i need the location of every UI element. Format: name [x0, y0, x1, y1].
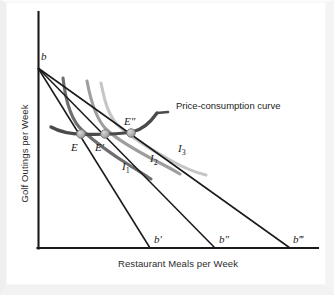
indifference-curve-label-i2: I2 — [150, 152, 158, 167]
budget-origin-label-b: b — [41, 50, 47, 62]
budget-line-b-triple-prime — [38, 68, 290, 248]
equilibrium-point-e-prime — [101, 130, 110, 139]
equilibrium-label-e-prime: E′ — [95, 141, 104, 153]
i1-subscript: 1 — [126, 166, 130, 175]
equilibrium-markers — [77, 129, 136, 139]
budget-lines — [38, 68, 290, 248]
equilibrium-label-e-double-prime: E″ — [124, 115, 135, 127]
equilibrium-point-e — [77, 130, 86, 139]
i3-subscript: 3 — [182, 148, 186, 157]
indifference-curve-label-i3: I3 — [178, 142, 186, 157]
pcc-leader-line — [157, 112, 168, 113]
budget-line-b-double-prime — [38, 68, 215, 248]
budget-endpoint-label-b-triple-prime: b‴ — [293, 233, 303, 245]
figure-screenshot: Golf Outings per Week Restaurant Meals p… — [0, 0, 334, 295]
equilibrium-point-e-double-prime — [127, 129, 136, 138]
budget-endpoint-label-b-prime: b′ — [154, 233, 162, 245]
equilibrium-label-e: E — [71, 141, 78, 153]
i2-subscript: 2 — [154, 158, 158, 167]
indifference-curve-label-i1: I1 — [122, 160, 130, 175]
price-consumption-curve-label: Price-consumption curve — [176, 100, 281, 111]
budget-endpoint-label-b-double-prime: b″ — [219, 233, 229, 245]
budget-line-b-prime — [38, 68, 150, 248]
x-axis-label: Restaurant Meals per Week — [38, 258, 318, 269]
y-axis-label: Golf Outings per Week — [19, 79, 30, 229]
chart-canvas — [0, 0, 334, 295]
